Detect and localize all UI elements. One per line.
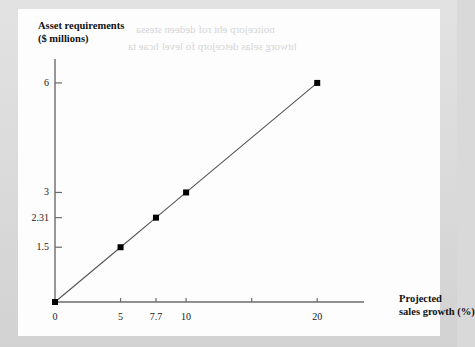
axes-group bbox=[55, 59, 364, 302]
x-tick-label: 20 bbox=[297, 311, 337, 322]
y-tick-label: 6 bbox=[3, 77, 49, 88]
x-tick-label: 0 bbox=[35, 311, 75, 322]
data-point-marker bbox=[153, 215, 159, 221]
figure-card: noitcejorp eht rof dedeen stessa htworg … bbox=[18, 9, 440, 336]
y-tick-label: 3 bbox=[3, 186, 49, 197]
y-tick-label: 1.5 bbox=[3, 241, 49, 252]
x-tick-label: 10 bbox=[166, 311, 206, 322]
data-point-marker bbox=[314, 80, 320, 86]
data-point-marker bbox=[52, 299, 58, 305]
x-tick-label: 5 bbox=[101, 311, 141, 322]
chart-plot-area bbox=[18, 9, 440, 336]
data-point-marker bbox=[183, 189, 189, 195]
y-tick-label: 2.31 bbox=[3, 212, 49, 223]
data-point-marker bbox=[118, 244, 124, 250]
